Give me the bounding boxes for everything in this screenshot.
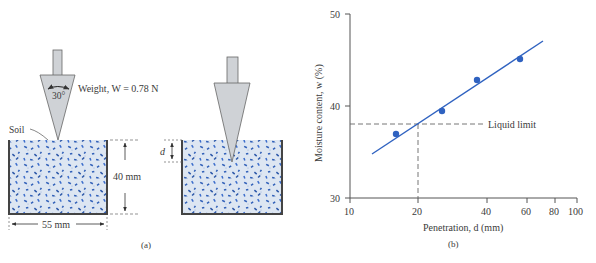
y-ticks [345,14,350,198]
x-tick-40: 40 [481,206,491,217]
soil-leader-line [30,129,48,140]
x-tick-60: 60 [521,206,531,217]
y-tick-30: 30 [330,193,340,204]
penetration-dimension [164,140,182,162]
data-point [474,77,480,83]
container-left [9,140,107,214]
x-tick-100: 100 [568,206,583,217]
data-point [517,56,523,62]
x-ticks [350,198,577,203]
caption-b: (b) [448,239,459,249]
chart: 50 40 30 10 20 40 60 80 100 Penetration,… [313,9,583,234]
figure-canvas: 30° Weight, W = 0.78 N Soil 40 mm 55 mm … [0,0,596,263]
caption-a: (a) [141,240,151,250]
data-point [393,131,399,137]
cone-angle-label: 30° [52,91,66,101]
penetration-label: d [160,146,166,157]
y-tick-40: 40 [330,101,340,112]
data-point [439,108,445,114]
y-axis-label: Moisture content, w (%) [313,64,325,162]
x-tick-10: 10 [344,206,354,217]
soil-label: Soil [9,125,25,135]
x-tick-20: 20 [412,206,422,217]
weight-label: Weight, W = 0.78 N [78,83,159,94]
x-axis-label: Penetration, d (mm) [423,222,503,234]
height-label: 40 mm [113,171,141,182]
width-label: 55 mm [42,219,70,230]
liquid-limit-label: Liquid limit [488,119,536,130]
x-tick-80: 80 [549,206,559,217]
y-tick-50: 50 [330,9,340,20]
